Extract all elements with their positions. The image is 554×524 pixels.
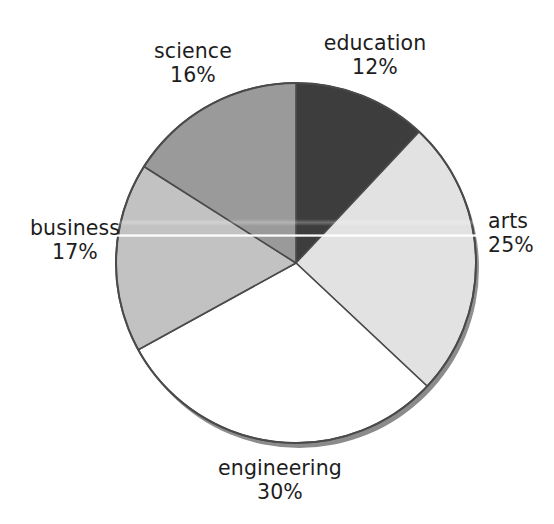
slice-label-education: education 12%: [300, 32, 450, 80]
slice-label-business: business 17%: [20, 217, 130, 265]
slice-label-education-value: 12%: [300, 56, 450, 80]
pie-slices-group: [116, 83, 476, 443]
slice-label-engineering-value: 30%: [196, 481, 364, 505]
slice-label-business-value: 17%: [20, 241, 130, 265]
slice-label-engineering-name: engineering: [196, 457, 364, 481]
slice-label-science-value: 16%: [120, 64, 266, 88]
slice-label-education-name: education: [300, 32, 450, 56]
slice-label-arts: arts 25%: [488, 210, 550, 258]
slice-label-arts-name: arts: [488, 210, 550, 234]
pie-chart-figure: science 16% education 12% arts 25% busin…: [0, 0, 554, 524]
slice-label-science: science 16%: [120, 40, 266, 88]
slice-label-science-name: science: [120, 40, 266, 64]
slice-label-business-name: business: [20, 217, 130, 241]
slice-label-engineering: engineering 30%: [196, 457, 364, 505]
slice-label-arts-value: 25%: [488, 234, 550, 258]
